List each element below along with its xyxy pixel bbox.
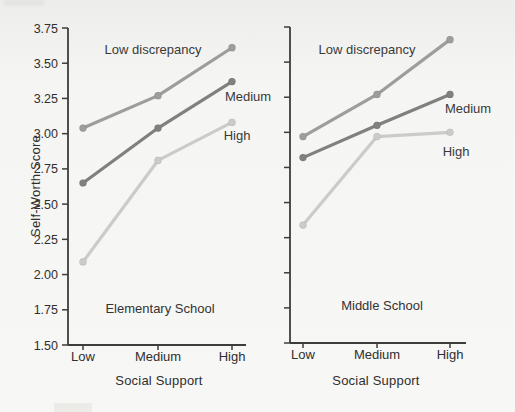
x-tick-label: High	[219, 349, 246, 364]
x-tick-label: Medium	[135, 349, 181, 364]
dual-panel-line-chart: 1.501.752.002.252.502.753.003.253.503.75…	[0, 0, 515, 412]
series-marker-low-discrepancy	[299, 133, 306, 140]
x-tick-label: Medium	[354, 347, 400, 362]
series-label-medium-left: Medium	[217, 89, 279, 105]
y-axis-title: Self-Worth Score	[28, 106, 44, 266]
series-marker-low-discrepancy	[228, 44, 235, 51]
series-marker-medium	[79, 179, 86, 186]
x-axis-title-left: Social Support	[89, 373, 229, 388]
y-tick-label: 3.25	[34, 92, 58, 106]
series-marker-medium	[228, 78, 235, 85]
y-tick-label: 2.00	[34, 268, 58, 282]
series-marker-low-discrepancy	[154, 92, 161, 99]
x-tick-label: High	[437, 347, 464, 362]
series-marker-high	[154, 157, 161, 164]
series-marker-high	[228, 119, 235, 126]
series-marker-low-discrepancy	[446, 36, 453, 43]
series-label-low-discrepancy-right: Low discrepancy	[317, 42, 417, 58]
series-label-low-discrepancy-left: Low discrepancy	[103, 42, 203, 58]
series-marker-low-discrepancy	[373, 91, 380, 98]
series-marker-medium	[154, 124, 161, 131]
series-marker-high	[79, 258, 86, 265]
y-tick-label: 1.75	[34, 303, 58, 317]
y-tick-label: 3.75	[34, 22, 58, 36]
panel-title-middle: Middle School	[312, 298, 452, 313]
series-marker-high	[446, 129, 453, 136]
x-tick-label: Low	[71, 349, 95, 364]
series-label-high-left: High	[206, 128, 268, 144]
series-label-medium-right: Medium	[437, 101, 499, 117]
series-marker-high	[299, 221, 306, 228]
panel-title-elementary: Elementary School	[90, 301, 230, 316]
x-axis-title-right: Social Support	[306, 373, 446, 388]
series-marker-medium	[373, 122, 380, 129]
y-tick-label: 1.50	[34, 339, 58, 353]
y-tick-label: 3.50	[34, 57, 58, 71]
series-label-high-right: High	[425, 144, 487, 160]
series-marker-medium	[446, 91, 453, 98]
series-marker-medium	[299, 154, 306, 161]
series-line-low-discrepancy	[83, 48, 232, 128]
x-tick-label: Low	[291, 347, 315, 362]
series-marker-high	[373, 133, 380, 140]
series-marker-low-discrepancy	[79, 124, 86, 131]
figure: 1.501.752.002.252.502.753.003.253.503.75…	[0, 0, 515, 412]
